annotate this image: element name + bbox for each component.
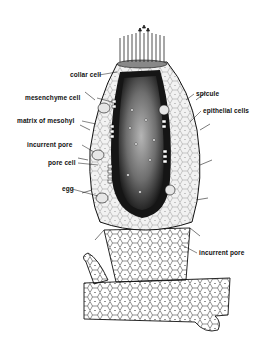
sponge-body: [90, 60, 200, 230]
stalk: [104, 228, 190, 282]
spongocoel: [119, 76, 164, 210]
label-epithelial-cells: epithelial cells: [203, 108, 249, 115]
label-mesenchyme-cell: mesenchyme cell: [25, 95, 80, 102]
osculum-currents: [120, 25, 164, 62]
label-matrix-of-mesohyl: matrix of mesohyl: [17, 118, 74, 125]
label-collar-cell: collar cell: [70, 72, 101, 79]
sponge-diagram: [0, 0, 268, 360]
label-spicule: spicule: [196, 91, 219, 98]
label-pore-cell: pore cell: [48, 160, 76, 167]
label-incurrent-pore-left: incurrent pore: [27, 142, 72, 149]
label-incurrent-pore-right: incurrent pore: [199, 250, 244, 257]
label-egg: egg: [62, 186, 74, 193]
